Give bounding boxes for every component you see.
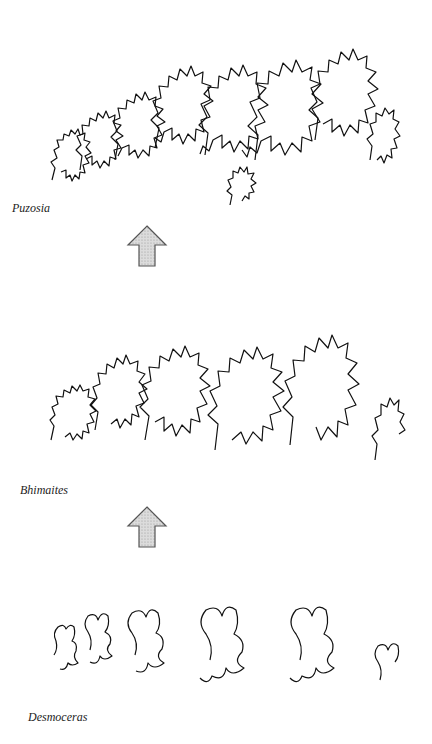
suture-line-desmoceras [50, 560, 420, 700]
arrow-up-icon [126, 224, 168, 272]
panel-puzosia: Puzosia [0, 0, 432, 220]
panel-bhimaites: Bhimaites [0, 290, 432, 490]
suture-line-puzosia [40, 10, 420, 220]
panel-desmoceras: Desmoceras [0, 560, 432, 744]
suture-line-bhimaites [45, 290, 420, 480]
arrow-up-icon [126, 505, 168, 553]
label-desmoceras: Desmoceras [28, 710, 87, 725]
label-bhimaites: Bhimaites [20, 483, 68, 498]
label-puzosia: Puzosia [12, 201, 50, 216]
